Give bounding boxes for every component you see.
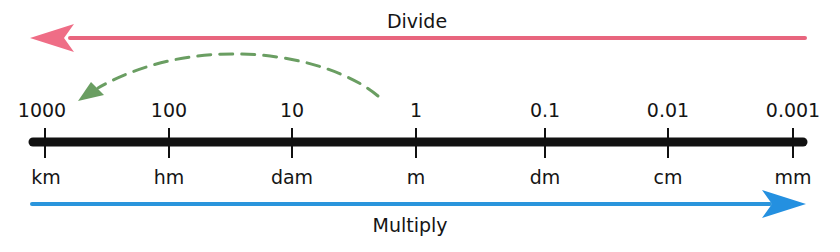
number-line bbox=[33, 128, 803, 158]
unit-label-mm: mm bbox=[774, 168, 811, 187]
value-label-cm: 0.01 bbox=[647, 101, 689, 120]
value-label-dm: 0.1 bbox=[530, 101, 560, 120]
value-label-mm: 0.001 bbox=[766, 101, 820, 120]
unit-label-dam: dam bbox=[271, 168, 313, 187]
divide-label: Divide bbox=[387, 12, 447, 31]
unit-label-hm: hm bbox=[154, 168, 185, 187]
value-label-dam: 10 bbox=[280, 101, 304, 120]
unit-label-km: km bbox=[31, 168, 61, 187]
value-label-hm: 100 bbox=[151, 101, 187, 120]
unit-label-m: m bbox=[407, 168, 426, 187]
example-conversion-arc bbox=[78, 54, 378, 101]
value-label-m: 1 bbox=[410, 101, 422, 120]
arc-arrowhead-icon bbox=[78, 82, 104, 101]
unit-label-cm: cm bbox=[654, 168, 683, 187]
multiply-label: Multiply bbox=[372, 216, 447, 235]
value-label-km: 1000 bbox=[18, 101, 66, 120]
unit-label-dm: dm bbox=[530, 168, 561, 187]
